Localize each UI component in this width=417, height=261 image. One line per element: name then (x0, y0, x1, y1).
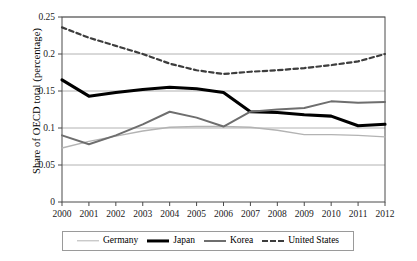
x-tick-label: 2006 (214, 209, 233, 219)
x-tick-label: 2001 (79, 209, 98, 219)
legend-label-united-states: United States (288, 236, 339, 246)
series-line-united-states (62, 27, 385, 74)
legend-item-germany[interactable]: Germany (77, 236, 138, 246)
chart-plot-area: 00.050.10.150.20.25 20002001200220032004… (0, 0, 417, 261)
chart-legend: Germany Japan Korea United States (62, 231, 354, 251)
x-tick-label: 2009 (295, 209, 314, 219)
y-tick-marks (58, 17, 62, 202)
series-line-korea (62, 101, 385, 144)
legend-label-japan: Japan (173, 236, 195, 246)
legend-label-korea: Korea (230, 236, 253, 246)
x-tick-label: 2005 (187, 209, 206, 219)
x-tick-label: 2010 (322, 209, 341, 219)
y-tick-label: 0.2 (43, 49, 55, 59)
y-tick-label: 0.25 (38, 12, 55, 22)
legend-item-united-states[interactable]: United States (262, 236, 339, 246)
chart-figure: Share of OECD total (percentage) 00.050.… (0, 0, 417, 261)
x-tick-label: 2000 (53, 209, 72, 219)
x-tick-label: 2011 (349, 209, 368, 219)
legend-item-korea[interactable]: Korea (204, 236, 253, 246)
x-tick-label: 2004 (160, 209, 179, 219)
y-tick-labels: 00.050.10.150.20.25 (38, 12, 55, 207)
series-line-japan (62, 80, 385, 126)
x-tick-label: 2007 (241, 209, 260, 219)
y-tick-label: 0 (50, 197, 55, 207)
y-tick-label: 0.05 (38, 160, 55, 170)
legend-line-korea-icon (204, 236, 226, 246)
x-tick-label: 2002 (106, 209, 125, 219)
y-tick-label: 0.1 (43, 123, 55, 133)
legend-line-united-states-icon (262, 236, 284, 246)
x-tick-labels: 2000200120022003200420052006200720082009… (53, 209, 395, 219)
x-tick-label: 2008 (268, 209, 287, 219)
legend-item-japan[interactable]: Japan (147, 236, 195, 246)
legend-line-japan-icon (147, 236, 169, 246)
y-tick-label: 0.15 (38, 86, 55, 96)
x-tick-label: 2003 (133, 209, 152, 219)
data-series-group (62, 27, 385, 148)
x-tick-marks (62, 202, 385, 206)
legend-line-germany-icon (77, 236, 99, 246)
x-tick-label: 2012 (376, 209, 395, 219)
legend-label-germany: Germany (103, 236, 138, 246)
